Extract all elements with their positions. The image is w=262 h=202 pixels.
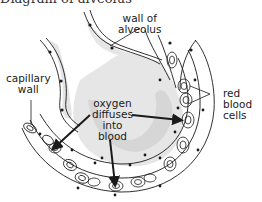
alveolus-shadow-left xyxy=(50,40,72,119)
label-wall-of-alveolus: wall of alveolus xyxy=(118,13,162,35)
label-capillary-wall: capillary wall xyxy=(6,73,51,95)
leader-red-blood-cells-2 xyxy=(188,94,210,104)
label-red-blood-cells: red blood cells xyxy=(223,88,252,121)
label-oxygen-diffuses-into-blood: oxygen diffuses into blood xyxy=(92,98,133,142)
alveolus-diagram: Diagram of alveolus xyxy=(0,0,262,202)
